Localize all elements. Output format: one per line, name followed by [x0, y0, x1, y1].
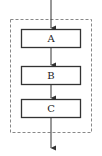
node-b-label: B — [47, 70, 54, 81]
node-a-label: A — [46, 33, 55, 44]
flow-diagram: A B C — [0, 0, 102, 156]
node-a: A — [22, 30, 81, 48]
node-c: C — [22, 100, 81, 118]
node-b: B — [22, 67, 81, 85]
node-c-label: C — [47, 103, 55, 114]
